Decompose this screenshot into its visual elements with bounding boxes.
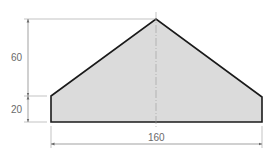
- shape-profile: [51, 19, 262, 122]
- technical-drawing: 60 20 160: [0, 0, 274, 154]
- dimension-label-20: 20: [11, 104, 23, 115]
- dimension-label-160: 160: [148, 132, 165, 143]
- dimension-label-60: 60: [11, 52, 23, 63]
